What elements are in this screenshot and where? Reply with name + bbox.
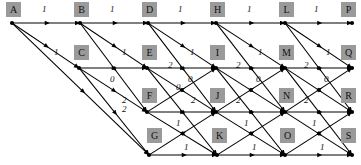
edge-weight-label: 2 bbox=[236, 60, 241, 70]
edge-weight-label: 0 bbox=[176, 82, 181, 92]
edge-weight-label: 2 bbox=[236, 95, 241, 105]
node-label-f: F bbox=[142, 88, 157, 103]
node-label-j: J bbox=[210, 88, 225, 103]
node-label-l: L bbox=[279, 2, 294, 17]
node-label-n: N bbox=[279, 88, 294, 103]
node-dot-p[interactable] bbox=[350, 21, 354, 25]
node-dot-e[interactable] bbox=[145, 66, 149, 70]
node-dot-c[interactable] bbox=[77, 66, 81, 70]
edge-arrow-H-L bbox=[249, 21, 254, 25]
node-label-p: P bbox=[341, 2, 356, 17]
node-dot-o[interactable] bbox=[283, 153, 287, 157]
edge-weight-label: 2 bbox=[304, 95, 309, 105]
edge-weight-label: 0 bbox=[256, 74, 261, 84]
node-label-s: S bbox=[341, 128, 356, 143]
edge-weight-label: 2 bbox=[191, 95, 196, 105]
node-label-e: E bbox=[142, 45, 157, 60]
edge-weight-label: 1 bbox=[258, 47, 263, 57]
node-dot-q[interactable] bbox=[350, 66, 354, 70]
edge-weight-label: 2 bbox=[122, 104, 127, 114]
edge-arrow-A-C bbox=[43, 43, 48, 48]
edge-weight-label: 1 bbox=[122, 47, 127, 57]
edge-A-G bbox=[13, 24, 148, 154]
edge-lines bbox=[13, 21, 351, 157]
node-label-g: G bbox=[147, 128, 162, 143]
edge-weight-label: 1 bbox=[42, 4, 47, 14]
edge-weight-label: 1 bbox=[247, 4, 252, 14]
edge-weight-label: 0 bbox=[110, 74, 115, 84]
node-label-a: A bbox=[6, 2, 21, 17]
edge-arrow-D-H bbox=[181, 21, 186, 25]
node-dot-d[interactable] bbox=[146, 21, 150, 25]
diagram-canvas: ABDHLPCEIMQFJNRGKOS 11111111110202020202… bbox=[0, 0, 361, 165]
node-label-i: I bbox=[210, 45, 225, 60]
edge-weight-label: 1 bbox=[314, 4, 319, 14]
edge-weight-label: 1 bbox=[178, 4, 183, 14]
node-label-c: C bbox=[74, 45, 89, 60]
edge-arrow-L-P bbox=[317, 21, 322, 25]
edge-weight-label: 1 bbox=[326, 47, 331, 57]
edge-arrow-B-D bbox=[113, 21, 118, 25]
edge-weight-label: 1 bbox=[312, 118, 317, 128]
edge-weight-label: 1 bbox=[190, 47, 195, 57]
node-label-q: Q bbox=[341, 45, 356, 60]
node-label-o: O bbox=[280, 128, 295, 143]
node-label-h: H bbox=[210, 2, 225, 17]
node-label-r: R bbox=[341, 88, 356, 103]
edge-arrow-K-O bbox=[250, 153, 255, 157]
node-dot-k[interactable] bbox=[215, 153, 219, 157]
edge-weight-label: 0 bbox=[324, 74, 329, 84]
edge-arrow-D-I bbox=[180, 43, 185, 48]
edge-weight-label: 2 bbox=[168, 60, 173, 70]
edge-weight-label: 1 bbox=[110, 4, 115, 14]
node-dot-j[interactable] bbox=[214, 110, 218, 114]
node-dot-r[interactable] bbox=[350, 110, 354, 114]
node-dot-s[interactable] bbox=[350, 153, 354, 157]
edge-weight-label: 1 bbox=[176, 118, 181, 128]
node-label-m: M bbox=[279, 45, 294, 60]
edge-arrow-H-M bbox=[249, 43, 254, 48]
edge-arrow-G-K bbox=[182, 153, 187, 157]
node-label-b: B bbox=[74, 2, 89, 17]
edge-arrow-A-B bbox=[45, 21, 50, 25]
node-dot-a[interactable] bbox=[10, 21, 14, 25]
edge-arrow-B-E bbox=[111, 43, 116, 48]
node-dot-i[interactable] bbox=[214, 66, 218, 70]
edge-weight-label: 0 bbox=[188, 74, 193, 84]
edge-weight-label: 1 bbox=[54, 47, 59, 57]
edge-arrow-L-Q bbox=[316, 43, 321, 48]
node-dot-g[interactable] bbox=[147, 153, 151, 157]
node-label-d: D bbox=[142, 2, 157, 17]
node-dot-f[interactable] bbox=[145, 110, 149, 114]
node-label-k: K bbox=[212, 128, 227, 143]
node-dot-m[interactable] bbox=[283, 66, 287, 70]
edge-weight-label: 1 bbox=[184, 142, 189, 152]
edge-weight-label: 1 bbox=[244, 118, 249, 128]
edge-arrow-O-S bbox=[317, 153, 322, 157]
node-dot-l[interactable] bbox=[283, 21, 287, 25]
edge-arrow-C-F bbox=[111, 88, 116, 93]
edge-weight-label: 1 bbox=[320, 142, 325, 152]
edge-weight-label: 1 bbox=[252, 142, 257, 152]
node-dot-b[interactable] bbox=[78, 21, 82, 25]
node-dot-n[interactable] bbox=[283, 110, 287, 114]
node-dot-h[interactable] bbox=[214, 21, 218, 25]
edge-weight-label: 2 bbox=[304, 60, 309, 70]
